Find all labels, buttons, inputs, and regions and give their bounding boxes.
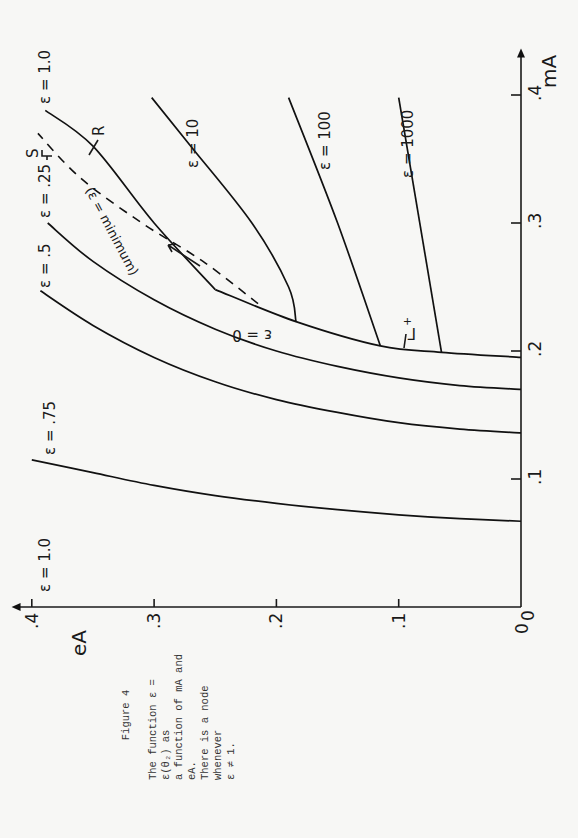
label-R: R [90,126,108,136]
mA-tick-label: .2 [525,341,545,357]
label-eps-100: ε = 100 [316,111,334,170]
label-eps-10: ε = 10 [184,119,202,168]
mA-arrow-icon [517,49,525,58]
eA-tick-label: .3 [144,613,164,629]
eA-tick-label: .2 [266,613,286,629]
figure-number: Figure 4 [120,650,133,780]
label-eps-05: ε = .5 [36,243,54,288]
label-eps-0: ε = 0 [232,326,272,344]
figure-caption: Figure 4 The function ε = ε(θ₂) as a fun… [120,660,290,780]
label-eps-1000: ε = 1000 [399,110,417,178]
curves [32,98,521,522]
label-eps-1-axis: ε = 1.0 [36,538,54,592]
caption-line-1: The function ε = ε(θ₂) as [147,650,173,780]
mA-tick-label: .1 [525,469,545,485]
caption-line-4: ε ≠ 1. [225,650,238,780]
gamma-pointer [404,334,406,348]
eA-arrow-icon [12,603,21,611]
S-bracket [42,150,52,160]
eA-axis-title: eA [67,630,91,656]
mA-tick-label: .3 [525,213,545,229]
label-eps-075: ε = .75 [41,401,59,455]
caption-line-3: There is a node whenever [199,650,225,780]
caption-line-2: a function of mA and eA. [173,650,199,780]
R-pointer [89,140,98,155]
curve-3 [215,290,521,358]
label-eps-025: ε = .25 [36,164,54,218]
curve-7 [289,98,381,346]
label-gamma-plus: + [403,315,412,328]
curve-1 [40,291,521,433]
label-eps-1-top: ε = 1.0 [36,50,54,104]
mA-axis-title: mA [537,55,561,88]
label-eps-minimum: (ε = minimum) [82,184,141,278]
origin-label-eA: 0 [512,623,532,634]
curve-0 [32,460,521,521]
origin-label-mA: 0 [518,610,538,621]
curve-5 [38,133,258,303]
eA-tick-label: .1 [389,613,409,629]
min-pointer-arrow [168,244,200,266]
label-S: S [24,148,42,158]
curve-6 [152,98,296,322]
eA-tick-label: .4 [22,613,42,629]
